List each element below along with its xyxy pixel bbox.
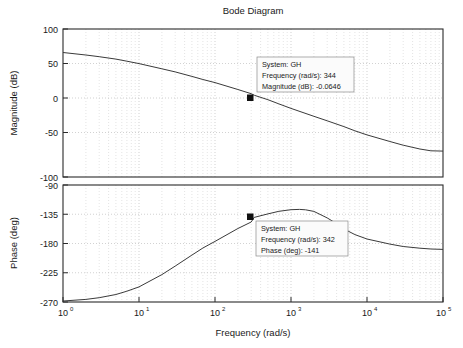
magnitude-plot-frame [63, 29, 443, 177]
xtick-base-5: 10 [436, 308, 446, 318]
phase-ytick-neg180: -180 [40, 239, 58, 249]
magnitude-curve [63, 53, 443, 152]
magnitude-axis-label: Magnitude (dB) [8, 71, 19, 136]
phase-panel: -90 -135 -180 -225 -270 Phase (deg) Syst… [8, 181, 443, 308]
magnitude-ytick-neg50: -50 [45, 128, 58, 138]
phase-ytick-neg135: -135 [40, 210, 58, 220]
magnitude-ytick-0: 0 [53, 94, 58, 104]
magnitude-datatip-system: System: GH [262, 60, 301, 69]
magnitude-ytick-100: 100 [43, 25, 58, 35]
phase-axis-label: Phase (deg) [8, 217, 19, 269]
phase-y-tickmarks [63, 185, 68, 302]
xtick-base-3: 10 [286, 308, 296, 318]
magnitude-major-gridlines [139, 29, 367, 177]
bode-diagram-figure: Bode Diagram [0, 0, 463, 348]
phase-ytick-neg270: -270 [40, 298, 58, 308]
magnitude-panel: 100 50 0 -50 -100 Magnitude (dB) System:… [8, 25, 443, 183]
magnitude-datatip-frequency: Frequency (rad/s): 344 [262, 71, 336, 80]
page-title: Bode Diagram [223, 5, 284, 16]
x-axis-ticklabels: 10 0 10 1 10 2 10 3 10 4 10 5 [58, 306, 452, 318]
magnitude-datatip[interactable]: System: GH Frequency (rad/s): 344 Magnit… [257, 57, 354, 92]
xtick-exp-5: 5 [448, 306, 452, 312]
xtick-exp-0: 0 [70, 306, 74, 312]
xtick-base-2: 10 [210, 308, 220, 318]
magnitude-ytick-50: 50 [48, 59, 58, 69]
phase-datatip-phase: Phase (deg): -141 [261, 246, 319, 255]
magnitude-minor-gridlines [86, 29, 439, 177]
phase-ytick-neg90: -90 [45, 181, 58, 191]
xtick-exp-4: 4 [374, 306, 378, 312]
magnitude-data-marker[interactable] [247, 95, 254, 102]
phase-datatip-system: System: GH [261, 224, 300, 233]
magnitude-y-tickmarks [63, 29, 68, 177]
xtick-base-0: 10 [58, 308, 68, 318]
x-axis-tickmarks [63, 297, 443, 302]
phase-data-marker[interactable] [247, 214, 254, 221]
xtick-exp-1: 1 [146, 306, 150, 312]
phase-curve [63, 209, 443, 301]
phase-datatip-frequency: Frequency (rad/s): 342 [261, 235, 335, 244]
xtick-base-1: 10 [134, 308, 144, 318]
x-axis-label: Frequency (rad/s) [216, 327, 291, 338]
xtick-exp-3: 3 [298, 306, 302, 312]
xtick-exp-2: 2 [222, 306, 226, 312]
xtick-base-4: 10 [362, 308, 372, 318]
phase-datatip[interactable]: System: GH Frequency (rad/s): 342 Phase … [256, 221, 348, 256]
phase-ytick-neg225: -225 [40, 268, 58, 278]
magnitude-datatip-magnitude: Magnitude (dB): -0.0646 [262, 82, 341, 91]
